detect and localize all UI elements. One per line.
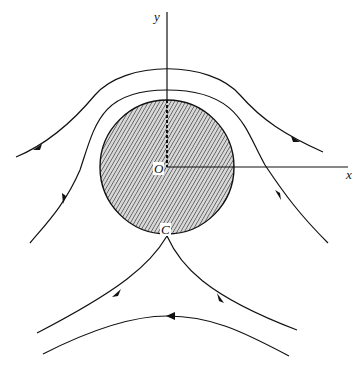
arrow-icon — [166, 312, 175, 320]
streamline-bottom — [43, 316, 289, 356]
origin-label: O — [153, 162, 164, 175]
y-axis-label: y — [154, 10, 160, 23]
arrow-icon — [275, 190, 281, 200]
arrow-icon — [33, 144, 42, 150]
arrow-icon — [112, 289, 121, 297]
streamline-diagram — [0, 0, 363, 373]
x-axis-label: x — [346, 168, 352, 181]
point-c-label: C — [160, 223, 171, 236]
diagram-canvas: y x O C — [0, 0, 363, 373]
streamline-lower-left — [37, 236, 167, 333]
streamline-lower-right — [167, 236, 297, 330]
